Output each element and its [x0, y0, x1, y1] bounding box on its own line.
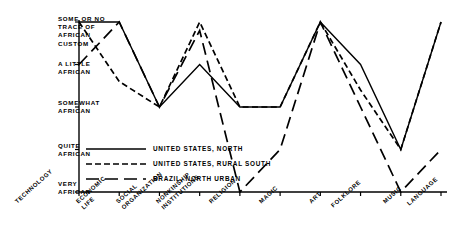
legend-key-short-dash-icon: [84, 158, 148, 169]
series-line-0: [79, 22, 441, 150]
chart-container: SOME OR NO TRACE OF AFRICAN CUSTOM A LIT…: [0, 0, 459, 244]
legend-key-solid-icon: [84, 143, 148, 154]
legend-item-brazil-north-urban: BRAZIL, NORTH URBAN: [84, 171, 271, 186]
legend-label-brazil-north-urban: BRAZIL, NORTH URBAN: [153, 175, 241, 182]
legend: UNITED STATES, NORTH UNITED STATES, RURA…: [84, 141, 271, 186]
legend-item-us-north: UNITED STATES, NORTH: [84, 141, 271, 156]
legend-label-us-north: UNITED STATES, NORTH: [153, 145, 243, 152]
legend-label-us-rural-south: UNITED STATES, RURAL SOUTH: [153, 160, 271, 167]
series-line-1: [79, 22, 441, 150]
legend-item-us-rural-south: UNITED STATES, RURAL SOUTH: [84, 156, 271, 171]
plot-area: [0, 0, 459, 244]
legend-key-long-dash-icon: [84, 173, 148, 184]
